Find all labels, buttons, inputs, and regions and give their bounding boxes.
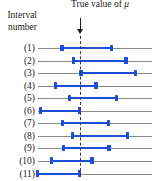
confidence-interval-segment <box>64 147 109 149</box>
interval-upper-endpoint <box>107 145 110 152</box>
interval-upper-endpoint <box>94 82 97 89</box>
interval-lower-endpoint <box>72 57 75 64</box>
confidence-interval-figure: True value of μ Interval number (1)(2)(3… <box>0 0 160 181</box>
interval-lower-endpoint <box>61 120 64 127</box>
interval-upper-endpoint <box>110 45 113 52</box>
confidence-interval-segment <box>73 135 128 137</box>
interval-row-label: (4) <box>0 80 35 92</box>
interval-lower-endpoint <box>54 82 57 89</box>
interval-row-label: (11) <box>0 168 35 180</box>
interval-row-label: (10) <box>0 155 35 167</box>
confidence-interval-segment <box>73 60 126 62</box>
interval-upper-endpoint <box>126 132 129 139</box>
interval-upper-endpoint <box>115 95 118 102</box>
interval-row-label: (2) <box>0 55 35 67</box>
interval-lower-endpoint <box>36 170 39 177</box>
interval-row-label: (3) <box>0 67 35 79</box>
confidence-interval-segment <box>41 110 80 112</box>
interval-upper-endpoint <box>134 70 137 77</box>
interval-lower-endpoint <box>60 45 63 52</box>
confidence-interval-segment <box>63 122 109 124</box>
confidence-interval-segment <box>38 173 80 175</box>
confidence-interval-segment <box>56 85 96 87</box>
interval-lower-endpoint <box>62 145 65 152</box>
interval-upper-endpoint <box>107 120 110 127</box>
interval-row-label: (8) <box>0 130 35 142</box>
confidence-interval-segment <box>70 97 117 99</box>
interval-upper-endpoint <box>124 57 127 64</box>
interval-row-label: (5) <box>0 92 35 104</box>
interval-lower-endpoint <box>71 132 74 139</box>
interval-row-label: (9) <box>0 142 35 154</box>
vertical-dashed-line-icon <box>80 36 81 176</box>
interval-lower-endpoint <box>68 95 71 102</box>
interval-row-label: (6) <box>0 105 35 117</box>
interval-lower-endpoint <box>39 107 42 114</box>
interval-row-label: (1) <box>0 42 35 54</box>
interval-lower-endpoint <box>50 157 53 164</box>
confidence-interval-segment <box>81 72 135 74</box>
interval-upper-endpoint <box>90 157 93 164</box>
confidence-interval-segment <box>62 47 111 49</box>
confidence-interval-segment <box>52 160 92 162</box>
interval-row-label: (7) <box>0 117 35 129</box>
